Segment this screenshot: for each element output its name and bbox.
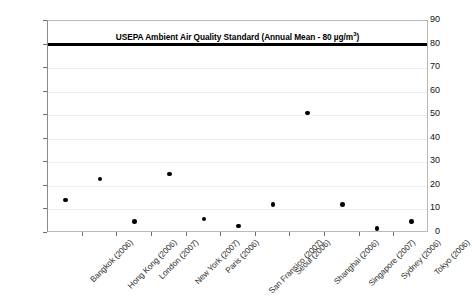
- gridline: [48, 92, 427, 93]
- x-tick-mark: [186, 232, 187, 236]
- plot-area: USEPA Ambient Air Quality Standard (Annu…: [47, 20, 428, 232]
- usepa-threshold-label: USEPA Ambient Air Quality Standard (Annu…: [48, 31, 427, 42]
- usepa-threshold-line: [48, 43, 427, 45]
- data-point: [340, 202, 345, 207]
- data-point: [98, 177, 103, 182]
- x-tick-mark: [82, 232, 83, 236]
- x-tick-mark: [220, 232, 221, 236]
- gridline: [48, 68, 427, 69]
- threshold-label-suffix: ): [356, 31, 359, 41]
- data-point: [305, 111, 310, 116]
- threshold-label-text: USEPA Ambient Air Quality Standard (Annu…: [116, 31, 353, 41]
- gridline: [48, 115, 427, 116]
- data-point: [409, 219, 414, 224]
- x-tick-mark: [151, 232, 152, 236]
- x-tick-mark: [255, 232, 256, 236]
- gridline: [48, 209, 427, 210]
- x-tick-mark: [289, 232, 290, 236]
- x-tick-mark: [359, 232, 360, 236]
- gridline: [48, 186, 427, 187]
- data-point: [236, 224, 241, 229]
- data-point: [63, 198, 68, 203]
- data-point: [167, 172, 172, 177]
- x-axis-label: Bangkok (2006): [89, 238, 136, 285]
- data-point: [271, 202, 276, 207]
- data-point: [202, 217, 207, 222]
- x-tick-mark: [324, 232, 325, 236]
- data-point: [375, 226, 380, 231]
- gridline: [48, 162, 427, 163]
- gridline: [48, 139, 427, 140]
- x-tick-mark: [393, 232, 394, 236]
- data-point: [132, 219, 137, 224]
- x-tick-mark: [116, 232, 117, 236]
- y-tick-mark: [43, 232, 47, 233]
